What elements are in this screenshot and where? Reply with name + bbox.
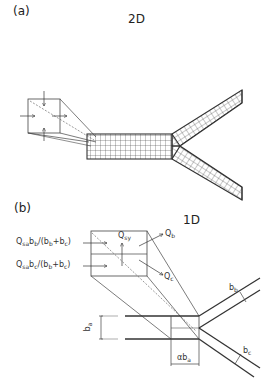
panel-a-cell-box (20, 91, 96, 146)
junction-length-label: αba (177, 353, 191, 363)
panel-b-title: 1D (183, 213, 200, 227)
q-b-label: Qb (165, 229, 175, 239)
panel-a-label: (a) (13, 4, 30, 18)
panel-a-2d-mesh (87, 90, 242, 200)
width-a-label: ba (83, 323, 93, 332)
main-channel-mesh (87, 134, 172, 159)
panel-a-title: 2D (128, 12, 145, 26)
width-b-label: bb (229, 283, 238, 293)
width-c-label: bc (243, 346, 251, 356)
q-sy-label: Qsy (118, 231, 131, 241)
panel-b-label: (b) (14, 201, 31, 215)
inflow-c-label: Qsabc/(bb+bc) (16, 260, 70, 270)
inflow-b-label: Qsabb/(bb+bc) (16, 237, 71, 247)
q-c-label: Qc (164, 272, 174, 282)
panel-b-cell-box (83, 231, 199, 339)
confluence-diagram (0, 0, 270, 387)
